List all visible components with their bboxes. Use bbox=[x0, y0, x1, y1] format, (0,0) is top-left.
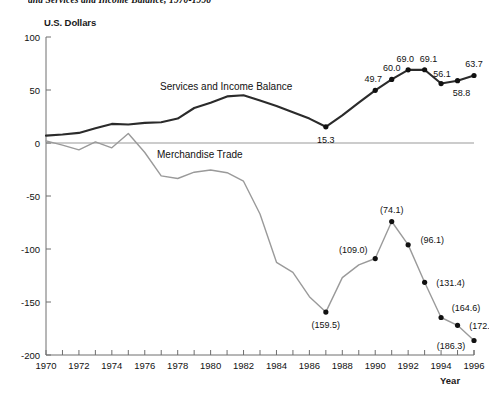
data-point-marker bbox=[471, 73, 476, 78]
y-tick-label: -150 bbox=[21, 297, 40, 308]
x-tick-label: 1980 bbox=[200, 360, 221, 371]
chart-figure: and Services and Income Balance, 1970-19… bbox=[0, 0, 489, 395]
data-point-label: 58.8 bbox=[453, 88, 471, 98]
x-tick-label: 1996 bbox=[463, 360, 484, 371]
data-point-label: (131.4) bbox=[436, 278, 465, 288]
x-tick-label: 1990 bbox=[365, 360, 386, 371]
x-tick-label: 1978 bbox=[167, 360, 188, 371]
y-tick-label: -200 bbox=[21, 350, 40, 361]
series-lines-group bbox=[46, 70, 474, 341]
data-point-label: (164.6) bbox=[452, 303, 481, 313]
data-point-label: (109.0) bbox=[339, 245, 368, 255]
y-tick-label: -100 bbox=[21, 244, 40, 255]
data-point-marker bbox=[455, 323, 460, 328]
chart-plot-area: 100500-50-100-150-200 197019721974197619… bbox=[0, 0, 489, 395]
series-annotations-group: Services and Income BalanceMerchandise T… bbox=[157, 81, 293, 160]
data-point-marker bbox=[406, 67, 411, 72]
data-point-label: (186.3) bbox=[437, 341, 466, 351]
x-tick-label: 1992 bbox=[398, 360, 419, 371]
series-annotation-services-income-balance: Services and Income Balance bbox=[160, 81, 293, 92]
data-point-marker bbox=[471, 338, 476, 343]
data-point-marker bbox=[422, 67, 427, 72]
data-point-label: (172.0) bbox=[469, 321, 489, 331]
x-tick-label: 1988 bbox=[332, 360, 353, 371]
data-point-marker bbox=[389, 77, 394, 82]
data-point-marker bbox=[373, 88, 378, 93]
data-point-marker bbox=[406, 242, 411, 247]
x-ticks-group: 1970197219741976197819801982198419861988… bbox=[35, 350, 484, 371]
series-line-services-income-balance bbox=[46, 70, 474, 136]
data-point-marker bbox=[422, 280, 427, 285]
data-point-marker bbox=[438, 81, 443, 86]
x-tick-label: 1972 bbox=[68, 360, 89, 371]
data-point-label: 63.7 bbox=[465, 59, 483, 69]
x-tick-label: 1986 bbox=[299, 360, 320, 371]
data-point-marker bbox=[323, 124, 328, 129]
x-tick-label: 1984 bbox=[266, 360, 287, 371]
series-annotation-merchandise-trade: Merchandise Trade bbox=[157, 149, 243, 160]
x-tick-label: 1970 bbox=[35, 360, 56, 371]
data-point-marker bbox=[373, 256, 378, 261]
data-point-marker bbox=[389, 219, 394, 224]
data-labels-group: 15.349.760.069.069.156.158.863.7(159.5)(… bbox=[312, 54, 489, 352]
data-point-marker bbox=[455, 78, 460, 83]
data-point-label: (96.1) bbox=[420, 235, 444, 245]
data-point-label: 69.1 bbox=[420, 54, 438, 64]
data-point-label: 15.3 bbox=[317, 135, 335, 145]
y-tick-label: 50 bbox=[29, 85, 40, 96]
data-point-marker bbox=[323, 309, 328, 314]
y-tick-label: -50 bbox=[26, 191, 40, 202]
x-tick-label: 1974 bbox=[101, 360, 122, 371]
data-point-label: 56.1 bbox=[433, 69, 451, 79]
data-point-label: (74.1) bbox=[380, 205, 404, 215]
data-point-label: 60.0 bbox=[383, 63, 401, 73]
x-tick-label: 1976 bbox=[134, 360, 155, 371]
y-tick-label: 100 bbox=[24, 32, 40, 43]
x-tick-label: 1982 bbox=[233, 360, 254, 371]
data-point-label: (159.5) bbox=[312, 320, 341, 330]
y-tick-label: 0 bbox=[35, 138, 40, 149]
data-point-marker bbox=[438, 315, 443, 320]
series-line-merchandise-trade bbox=[46, 134, 474, 341]
data-point-label: 69.0 bbox=[396, 54, 414, 64]
data-point-label: 49.7 bbox=[364, 74, 382, 84]
x-tick-label: 1994 bbox=[431, 360, 452, 371]
